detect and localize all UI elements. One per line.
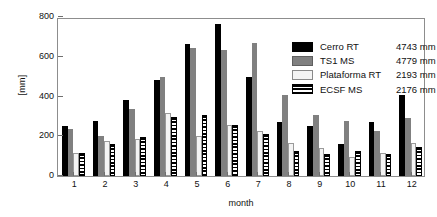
bar xyxy=(324,154,330,176)
bar xyxy=(202,115,208,176)
legend-series-name: Plataforma RT xyxy=(320,69,396,80)
x-tick: 10 xyxy=(349,172,350,176)
bar xyxy=(263,134,269,176)
y-tick-label: 0 xyxy=(49,170,54,180)
y-tick: 400 xyxy=(58,96,63,97)
bar xyxy=(79,153,85,176)
bar xyxy=(171,117,177,176)
bar xyxy=(355,151,361,176)
legend-item: TS1 MS4779 mm xyxy=(292,55,436,66)
x-tick-label: 12 xyxy=(402,179,422,189)
bar xyxy=(386,154,392,176)
y-tick-label: 800 xyxy=(39,11,54,21)
legend-item: ECSF MS2176 mm xyxy=(292,84,436,95)
y-tick: 0 xyxy=(58,175,63,176)
x-tick-label: 8 xyxy=(279,179,299,189)
bar xyxy=(294,151,300,176)
x-tick-label: 1 xyxy=(64,179,84,189)
y-tick-label: 200 xyxy=(39,130,54,140)
bar xyxy=(416,147,422,176)
y-tick: 800 xyxy=(58,16,63,17)
bar-group xyxy=(181,19,212,176)
x-tick: 4 xyxy=(165,172,166,176)
y-tick: 200 xyxy=(58,135,63,136)
legend-item: Cerro RT4743 mm xyxy=(292,41,436,52)
x-tick: 6 xyxy=(227,172,228,176)
y-tick: 600 xyxy=(58,56,63,57)
chart-figure: [mm] 0200400600800 123456789101112 Cerro… xyxy=(0,0,437,217)
legend-series-total: 4743 mm xyxy=(396,41,436,52)
x-tick-label: 2 xyxy=(95,179,115,189)
chart-legend: Cerro RT4743 mmTS1 MS4779 mmPlataforma R… xyxy=(292,41,436,95)
legend-series-name: Cerro RT xyxy=(320,41,396,52)
x-tick: 5 xyxy=(196,172,197,176)
x-tick: 9 xyxy=(319,172,320,176)
x-axis-label: month xyxy=(57,198,425,208)
bar-group xyxy=(242,19,273,176)
legend-series-total: 4779 mm xyxy=(396,55,436,66)
y-axis-label: [mm] xyxy=(17,65,27,105)
legend-swatch-icon xyxy=(292,70,313,80)
bar-group xyxy=(119,19,150,176)
legend-series-total: 2176 mm xyxy=(396,84,436,95)
legend-item: Plataforma RT2193 mm xyxy=(292,69,436,80)
bar xyxy=(232,125,238,176)
x-tick: 3 xyxy=(135,172,136,176)
x-tick: 12 xyxy=(411,172,412,176)
bar-group xyxy=(211,19,242,176)
x-tick-label: 4 xyxy=(156,179,176,189)
bar-group xyxy=(58,19,89,176)
y-tick-label: 400 xyxy=(39,91,54,101)
legend-series-total: 2193 mm xyxy=(396,69,436,80)
x-tick-label: 7 xyxy=(248,179,268,189)
x-tick-label: 6 xyxy=(218,179,238,189)
legend-swatch-icon xyxy=(292,42,313,52)
legend-series-name: TS1 MS xyxy=(320,55,396,66)
y-tick-label: 600 xyxy=(39,51,54,61)
x-tick-label: 9 xyxy=(310,179,330,189)
legend-series-name: ECSF MS xyxy=(320,84,396,95)
x-tick: 7 xyxy=(257,172,258,176)
x-tick: 11 xyxy=(380,172,381,176)
x-tick-label: 3 xyxy=(126,179,146,189)
bar xyxy=(110,144,116,176)
bar-group xyxy=(89,19,120,176)
x-tick-label: 5 xyxy=(187,179,207,189)
legend-swatch-icon xyxy=(292,84,313,94)
x-tick: 1 xyxy=(73,172,74,176)
x-tick-label: 10 xyxy=(340,179,360,189)
x-tick-label: 11 xyxy=(371,179,391,189)
bar xyxy=(140,137,146,176)
x-tick: 2 xyxy=(104,172,105,176)
bar-group xyxy=(150,19,181,176)
x-tick: 8 xyxy=(288,172,289,176)
plot-area: 0200400600800 123456789101112 Cerro RT47… xyxy=(57,18,425,177)
legend-swatch-icon xyxy=(292,56,313,66)
